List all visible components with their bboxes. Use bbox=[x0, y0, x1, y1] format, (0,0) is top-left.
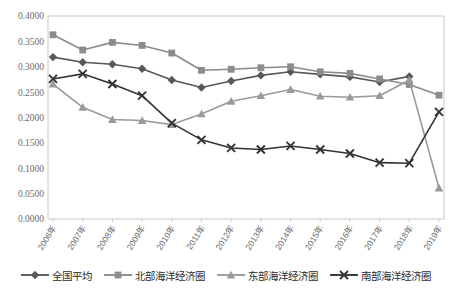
series-3 bbox=[49, 76, 444, 192]
data-point bbox=[287, 63, 294, 70]
data-point bbox=[286, 85, 295, 93]
data-point bbox=[168, 76, 176, 84]
data-point bbox=[227, 77, 235, 85]
x-axis-tick-label: 2008年 bbox=[95, 223, 118, 252]
y-axis-tick-label: 0.0000 bbox=[18, 214, 44, 224]
data-point bbox=[138, 65, 146, 73]
x-axis-tick-label: 2009年 bbox=[124, 223, 147, 252]
chart-canvas: 0.40000.35000.30000.25000.20000.15000.10… bbox=[0, 0, 451, 258]
y-axis-tick-label: 0.0500 bbox=[18, 189, 44, 199]
x-axis-tick-label: 2007年 bbox=[65, 223, 88, 252]
data-point bbox=[139, 42, 146, 49]
data-point bbox=[436, 92, 443, 99]
legend-label: 南部海洋经济圈 bbox=[361, 268, 431, 283]
x-axis-tick-label: 2013年 bbox=[243, 223, 266, 252]
x-axis-tick-label: 2019年 bbox=[421, 223, 444, 252]
data-point bbox=[79, 47, 86, 54]
data-point bbox=[168, 50, 175, 57]
y-axis-tick-label: 0.1500 bbox=[18, 138, 44, 148]
data-point bbox=[138, 92, 146, 100]
legend-item-1[interactable]: 全国平均 bbox=[20, 268, 92, 283]
data-point bbox=[435, 108, 443, 116]
data-point bbox=[317, 68, 324, 75]
y-axis-tick-label: 0.3000 bbox=[18, 62, 44, 72]
data-point bbox=[109, 39, 116, 46]
legend-label: 全国平均 bbox=[52, 268, 92, 283]
plot-area: 0.40000.35000.30000.25000.20000.15000.10… bbox=[0, 0, 451, 258]
data-point bbox=[257, 71, 265, 79]
x-axis-tick-label: 2011年 bbox=[184, 223, 207, 251]
x-axis-tick-label: 2016年 bbox=[332, 223, 355, 252]
data-point bbox=[198, 67, 205, 74]
series-2 bbox=[50, 31, 443, 98]
legend-label: 东部海洋经济圈 bbox=[248, 268, 318, 283]
y-axis-tick-label: 0.2000 bbox=[18, 113, 44, 123]
data-point bbox=[50, 31, 57, 38]
data-point bbox=[435, 184, 444, 192]
x-axis-tick-label: 2010年 bbox=[154, 223, 177, 252]
data-point bbox=[108, 80, 116, 88]
x-axis-tick-label: 2012年 bbox=[214, 223, 237, 252]
data-point bbox=[257, 64, 264, 71]
legend-label: 北部海洋经济圈 bbox=[135, 268, 205, 283]
legend-marker-square-icon bbox=[103, 268, 133, 282]
legend-item-2[interactable]: 北部海洋经济圈 bbox=[103, 268, 205, 283]
chart-legend: 全国平均北部海洋经济圈东部海洋经济圈南部海洋经济圈 bbox=[0, 262, 451, 288]
data-point bbox=[347, 70, 354, 77]
line-chart: 0.40000.35000.30000.25000.20000.15000.10… bbox=[0, 0, 451, 290]
data-point bbox=[49, 53, 57, 61]
y-axis-tick-label: 0.2500 bbox=[18, 88, 44, 98]
x-axis-tick-label: 2018年 bbox=[392, 223, 415, 252]
y-axis-tick-label: 0.3500 bbox=[18, 37, 44, 47]
y-axis-tick-label: 0.1000 bbox=[18, 164, 44, 174]
data-point bbox=[228, 66, 235, 73]
data-point bbox=[197, 83, 205, 91]
x-axis-tick-label: 2015年 bbox=[303, 223, 326, 252]
legend-item-3[interactable]: 东部海洋经济圈 bbox=[216, 268, 318, 283]
legend-item-4[interactable]: 南部海洋经济圈 bbox=[329, 268, 431, 283]
x-axis-tick-label: 2014年 bbox=[273, 223, 296, 252]
data-point bbox=[376, 76, 383, 83]
legend-marker-cross-icon bbox=[329, 268, 359, 282]
data-point bbox=[108, 60, 116, 68]
legend-marker-triangle-icon bbox=[216, 268, 246, 282]
legend-marker-diamond-icon bbox=[20, 268, 50, 282]
y-axis-tick-label: 0.4000 bbox=[18, 11, 44, 21]
x-axis-tick-label: 2017年 bbox=[362, 223, 385, 252]
x-axis-tick-label: 2006年 bbox=[35, 223, 58, 252]
data-point bbox=[78, 58, 86, 66]
